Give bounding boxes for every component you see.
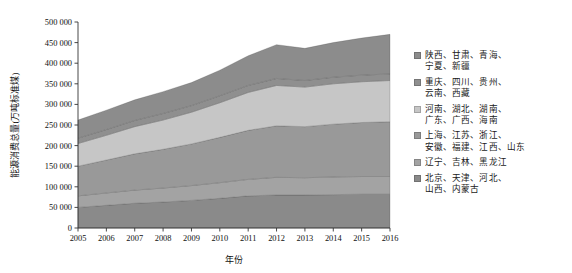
x-tick-label: 2016	[382, 234, 399, 243]
x-tick-label: 2013	[297, 234, 314, 243]
x-tick-label: 2008	[155, 234, 172, 243]
y-tick-label: 350 000	[45, 80, 72, 89]
x-tick-label: 2009	[183, 234, 200, 243]
legend-entry[interactable]: 河南、湖北、湖南、广东、广西、海南	[414, 104, 572, 126]
y-tick-label: 400 000	[45, 59, 72, 68]
y-tick-label: 50 000	[49, 203, 72, 212]
legend-entry[interactable]: 辽宁、吉林、黑龙江	[414, 157, 572, 168]
legend-entry[interactable]: 上海、江苏、浙江、安徽、福建、江西、山东	[414, 130, 572, 152]
x-tick-label: 2012	[268, 234, 285, 243]
y-tick-label: 200 000	[45, 142, 72, 151]
legend-entry[interactable]: 重庆、四川、贵州、云南、西藏	[414, 77, 572, 99]
legend-label: 上海、江苏、浙江、安徽、福建、江西、山东	[425, 130, 572, 152]
x-tick-group: 2005200620072008200920102011201220132014…	[70, 228, 399, 243]
y-tick-label: 100 000	[45, 183, 72, 192]
legend-swatch	[414, 159, 421, 166]
legend-label: 北京、天津、河北、山西、内蒙古	[425, 173, 572, 195]
chart-figure: 050 000100 000150 000200 000250 000300 0…	[0, 0, 572, 273]
x-tick-label: 2010	[211, 234, 228, 243]
x-tick-label: 2006	[98, 234, 115, 243]
x-axis-title: 年份	[225, 254, 243, 265]
x-tick-label: 2011	[240, 234, 256, 243]
legend-swatch	[414, 132, 421, 139]
legend-swatch	[414, 106, 421, 113]
y-tick-label: 300 000	[45, 100, 72, 109]
y-tick-label: 250 000	[45, 121, 72, 130]
legend-label: 辽宁、吉林、黑龙江	[425, 157, 572, 168]
legend-entry[interactable]: 北京、天津、河北、山西、内蒙古	[414, 173, 572, 195]
chart-legend: 陕西、甘肃、青海、宁夏、新疆重庆、四川、贵州、云南、西藏河南、湖北、湖南、广东、…	[414, 50, 572, 200]
y-axis-title: 能源消费总量(万吨标准煤)	[9, 73, 20, 178]
legend-swatch	[414, 175, 421, 182]
y-tick-label: 500 000	[45, 18, 72, 27]
legend-label: 河南、湖北、湖南、广东、广西、海南	[425, 104, 572, 126]
y-tick-label: 450 000	[45, 39, 72, 48]
x-tick-label: 2005	[70, 234, 87, 243]
x-tick-label: 2007	[126, 234, 143, 243]
y-tick-label: 150 000	[45, 162, 72, 171]
legend-label: 陕西、甘肃、青海、宁夏、新疆	[425, 50, 572, 72]
legend-swatch	[414, 52, 421, 59]
legend-entry[interactable]: 陕西、甘肃、青海、宁夏、新疆	[414, 50, 572, 72]
x-tick-label: 2015	[353, 234, 370, 243]
legend-label: 重庆、四川、贵州、云南、西藏	[425, 77, 572, 99]
x-tick-label: 2014	[325, 234, 343, 243]
legend-swatch	[414, 79, 421, 86]
y-tick-group: 050 000100 000150 000200 000250 000300 0…	[45, 18, 78, 233]
y-tick-label: 0	[68, 224, 72, 233]
